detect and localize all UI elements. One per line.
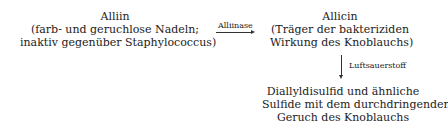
luftsauerstoff-arrow-line — [341, 55, 342, 76]
alliin-node: Alliin (farb- und geruchlose Nadeln; ina… — [20, 10, 210, 49]
products-line-3: Geruch des Knoblauchs — [262, 111, 424, 124]
products-node: Diallyldisulfid und ähnliche Sulfide mit… — [262, 85, 424, 124]
alliinase-arrow-line — [216, 32, 252, 33]
allicin-node: Allicin (Träger der bakteriziden Wirkung… — [270, 10, 410, 49]
luftsauerstoff-label: Luftsauerstoff — [349, 61, 406, 70]
arrow-right-icon — [251, 30, 255, 34]
allicin-desc-line-1: (Träger der bakteriziden — [270, 23, 410, 36]
alliin-name: Alliin — [20, 10, 210, 23]
products-line-2: Sulfide mit dem durchdringenden — [262, 98, 424, 111]
alliin-desc-line-1: (farb- und geruchlose Nadeln; — [20, 23, 210, 36]
allicin-desc-line-2: Wirkung des Knoblauchs) — [270, 36, 410, 49]
products-line-1: Diallyldisulfid und ähnliche — [262, 85, 424, 98]
alliinase-label: Alliinase — [218, 21, 253, 30]
arrow-down-icon — [339, 75, 343, 79]
alliin-desc-line-2: inaktiv gegenüber Staphylococcus) — [20, 36, 210, 49]
allicin-name: Allicin — [270, 10, 410, 23]
